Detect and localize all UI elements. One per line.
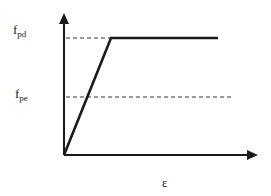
- epsilon-label: ε: [162, 176, 167, 189]
- fpd-label: fpd: [13, 23, 26, 39]
- fpe-label-sub: pe: [19, 93, 28, 103]
- x-axis-arrow-icon: [247, 150, 258, 160]
- stress-strain-diagram: fpd fpe ε: [0, 0, 271, 196]
- fpd-label-sub: pd: [17, 29, 26, 39]
- fpe-label: fpe: [15, 87, 28, 103]
- diagram-graphics: [0, 0, 271, 196]
- y-axis-arrow-icon: [59, 13, 69, 24]
